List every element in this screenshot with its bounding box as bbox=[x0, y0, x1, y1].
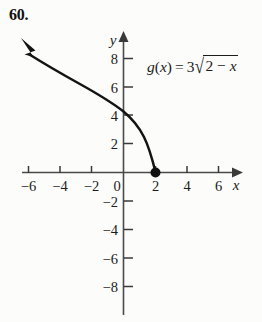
figure-container: 60. −6 −4 bbox=[0, 0, 262, 322]
x-axis-arrowhead bbox=[232, 168, 243, 178]
x-tick-label-6: 6 bbox=[215, 178, 222, 194]
curve-arrowhead bbox=[21, 38, 36, 57]
radical-group: √2 − x bbox=[194, 55, 237, 76]
x-axis-label: x bbox=[232, 177, 240, 193]
equation-equals-sign: = bbox=[175, 58, 184, 75]
y-tick-label-6: 6 bbox=[111, 80, 118, 96]
y-tick-label-neg8: −8 bbox=[103, 279, 118, 295]
y-tick-label-neg2: −2 bbox=[103, 194, 118, 210]
y-tick-label-neg4: −4 bbox=[103, 222, 119, 238]
x-tick-label-neg6: −6 bbox=[21, 178, 36, 194]
function-equation-label: g(x)=3√2 − x bbox=[147, 55, 238, 76]
equation-argument: x bbox=[160, 58, 167, 75]
radicand-minus-sign: − bbox=[217, 57, 226, 74]
equation-paren-close: ) bbox=[167, 58, 172, 75]
x-tick-label-neg4: −4 bbox=[52, 178, 68, 194]
y-axis-arrowhead bbox=[119, 31, 129, 42]
radicand-second-term: x bbox=[230, 57, 237, 74]
equation-function-name: g bbox=[147, 58, 155, 75]
y-axis-label: y bbox=[108, 32, 117, 48]
y-tick-label-8: 8 bbox=[111, 51, 118, 67]
y-tick-label-neg6: −6 bbox=[103, 251, 118, 267]
function-curve bbox=[30, 55, 156, 173]
x-tick-label-neg2: −2 bbox=[84, 178, 99, 194]
x-tick-label-2: 2 bbox=[152, 178, 159, 194]
origin-label: 0 bbox=[113, 178, 120, 194]
y-tick-label-2: 2 bbox=[111, 136, 118, 152]
graph-plot: −6 −4 −2 2 4 6 0 8 6 4 2 −2 −4 −6 −8 y x bbox=[0, 0, 262, 322]
radicand: 2 − x bbox=[203, 55, 237, 75]
equation-coefficient: 3 bbox=[187, 58, 195, 75]
y-tick-label-4: 4 bbox=[111, 108, 119, 124]
x-tick-label-4: 4 bbox=[183, 178, 191, 194]
radicand-first-term: 2 bbox=[205, 57, 213, 74]
endpoint-dot bbox=[151, 168, 161, 178]
